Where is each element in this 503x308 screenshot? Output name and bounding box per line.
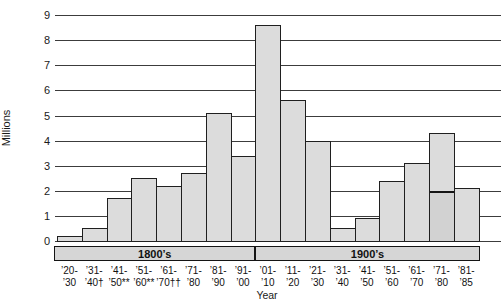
bar xyxy=(429,133,455,242)
bar xyxy=(107,198,133,242)
y-tick-label: 1 xyxy=(28,211,50,222)
era-band-label: 1900’s xyxy=(351,248,384,260)
plot-area: Millions Year 01234567891800’s1900’s’20-… xyxy=(0,0,503,308)
bar xyxy=(379,181,405,242)
bar xyxy=(156,186,182,242)
x-tick-line1: ’81- xyxy=(446,265,486,277)
y-tick-label: 5 xyxy=(28,111,50,122)
y-tick-label: 6 xyxy=(28,85,50,96)
bar xyxy=(206,113,232,242)
gridline xyxy=(55,15,501,16)
y-tick-label: 4 xyxy=(28,136,50,147)
bar xyxy=(330,228,356,242)
bar xyxy=(255,25,281,242)
bar xyxy=(82,228,108,242)
bar-segment-divider xyxy=(430,191,454,241)
bar xyxy=(454,188,480,242)
bar xyxy=(57,236,83,242)
bar xyxy=(231,156,257,242)
immigration-bar-chart-figure: Millions Year 01234567891800’s1900’s’20-… xyxy=(0,0,503,308)
bar xyxy=(131,178,157,242)
bar xyxy=(404,163,430,242)
x-tick-label: ’81-’85 xyxy=(446,265,486,288)
bar xyxy=(355,218,381,242)
x-tick-line2: ’85 xyxy=(446,277,486,289)
y-tick-label: 7 xyxy=(28,60,50,71)
y-axis-title: Millions xyxy=(0,88,14,168)
y-tick-label: 3 xyxy=(28,161,50,172)
era-band-1800s: 1800’s xyxy=(54,246,255,261)
y-tick-label: 2 xyxy=(28,186,50,197)
era-band-1900s: 1900’s xyxy=(255,246,479,261)
y-tick-label: 9 xyxy=(28,10,50,21)
y-tick-label: 0 xyxy=(28,236,50,247)
bar xyxy=(181,173,207,242)
bar xyxy=(280,100,306,242)
x-axis-title: Year xyxy=(237,289,297,301)
y-tick-label: 8 xyxy=(28,35,50,46)
bar xyxy=(305,141,331,242)
era-band-label: 1800’s xyxy=(138,248,171,260)
